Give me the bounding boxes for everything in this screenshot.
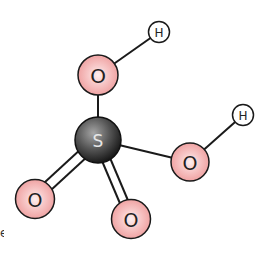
hydrogen-atom-top: H xyxy=(149,22,170,43)
oxygen-atom-bottom: O xyxy=(112,200,151,239)
atom-label: O xyxy=(90,64,106,88)
atom-label: O xyxy=(28,189,43,211)
atom-label: H xyxy=(238,109,247,123)
oxygen-atom-bottom-left: O xyxy=(16,180,55,219)
bonds xyxy=(32,32,243,220)
atom-label: S xyxy=(93,131,104,151)
atom-label: H xyxy=(154,26,163,40)
atom-label: O xyxy=(183,152,198,174)
atom-label: O xyxy=(124,209,139,231)
sulfur-atom: S xyxy=(75,117,121,163)
molecule-diagram: H H O O O O S xyxy=(0,0,269,255)
oxygen-atom-top: O xyxy=(78,55,118,95)
hydrogen-atom-right: H xyxy=(233,105,254,126)
oxygen-atom-right: O xyxy=(171,143,209,181)
cropped-text-fragment: e xyxy=(0,226,4,240)
